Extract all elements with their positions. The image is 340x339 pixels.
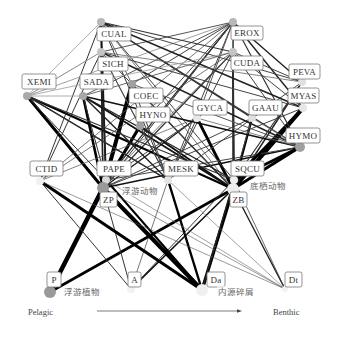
node-label-zb: ZB — [230, 192, 247, 207]
node-label-sqcu: SQCU — [231, 161, 264, 176]
node-label-zp: ZP — [100, 192, 117, 207]
node-sich — [97, 48, 105, 56]
label-text: SICH — [102, 59, 124, 69]
node-da — [196, 284, 208, 296]
label-text: Dt — [289, 275, 299, 285]
label-text: A — [131, 275, 138, 285]
label-text: MESK — [168, 164, 194, 174]
label-text: SADA — [84, 77, 110, 87]
node-label-sada: SADA — [80, 74, 113, 89]
pelagic-label: Pelagic — [28, 307, 53, 317]
node-label-hyno: HYNO — [136, 107, 170, 122]
node-label-erox: EROX — [231, 26, 263, 40]
food-web-diagram: CUALEROXSICHCUDAXEMISADACOECHYNOGYCAGAAU… — [0, 0, 340, 339]
arrow-head-icon — [237, 309, 242, 313]
label-text: EROX — [234, 28, 260, 38]
node-label-hymo: HYMO — [286, 128, 320, 143]
label-text: PAPE — [103, 164, 125, 174]
label-text: CUDA — [234, 58, 261, 68]
group-label-zoobenthos: 底栖动物 — [250, 181, 286, 191]
node-label-xemi: XEMI — [22, 74, 56, 89]
node-xemi — [23, 92, 31, 100]
node-sada — [79, 92, 87, 100]
node-label-peva: PEVA — [289, 64, 320, 79]
node-cual — [97, 18, 105, 26]
benthic-label: Benthic — [273, 307, 300, 317]
node-label-coec: COEC — [129, 88, 163, 103]
node-hymo — [295, 142, 305, 152]
node-label-da: Da — [207, 272, 225, 287]
node-label-mesk: MESK — [164, 161, 198, 176]
label-text: CTID — [36, 164, 58, 174]
node-p — [44, 286, 56, 298]
group-label-phytoplankton: 浮游植物 — [64, 287, 100, 297]
node-label-p: P — [47, 272, 61, 287]
label-text: GAAU — [252, 103, 279, 113]
label-text: SQCU — [235, 164, 260, 174]
group-label-detritus: 内源碎屑 — [218, 287, 254, 297]
label-text: Da — [211, 275, 222, 285]
node-label-gaau: GAAU — [249, 100, 282, 115]
node-label-gyca: GYCA — [193, 100, 227, 115]
label-text: XEMI — [27, 77, 51, 87]
node-label-cual: CUAL — [97, 27, 131, 41]
node-ctid — [36, 177, 44, 185]
pelagic-benthic-axis: Pelagic Benthic — [28, 307, 300, 317]
node-label-ctid: CTID — [30, 161, 63, 176]
node-coec — [128, 80, 136, 88]
label-text: MYAS — [291, 91, 317, 101]
node-erox — [229, 18, 237, 26]
label-text: GYCA — [197, 103, 224, 113]
node-cuda — [229, 48, 237, 56]
node-label-myas: MYAS — [288, 88, 319, 103]
node-label-sich: SICH — [98, 57, 128, 71]
label-text: CUAL — [101, 29, 126, 39]
label-text: HYMO — [289, 131, 318, 141]
group-label-zooplankton: 浮游动物 — [122, 186, 158, 196]
node-mesk — [164, 176, 172, 184]
label-text: P — [51, 275, 56, 285]
node-label-pape: PAPE — [97, 161, 131, 176]
node-hyno — [136, 122, 144, 130]
node-myas — [299, 104, 307, 112]
label-text: ZP — [103, 195, 114, 205]
node-label-cuda: CUDA — [231, 56, 263, 70]
node-label-a: A — [128, 272, 141, 287]
node-label-dt: Dt — [285, 272, 302, 287]
label-text: PEVA — [293, 67, 316, 77]
label-text: COEC — [134, 91, 159, 101]
label-text: ZB — [233, 195, 245, 205]
node-sqcu — [230, 176, 238, 184]
label-text: HYNO — [140, 110, 167, 120]
